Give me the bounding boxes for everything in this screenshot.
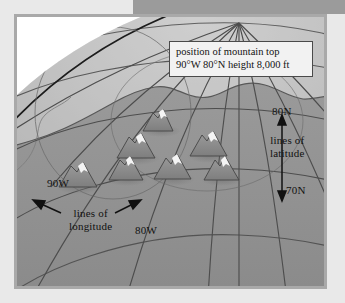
label-lines-of-latitude-line1: lines of: [270, 134, 305, 147]
label-80n: 80N: [272, 105, 292, 117]
mountain-top-callout: position of mountain top 90°W 80°N heigh…: [169, 41, 313, 77]
map-panel: 80N 70N lines of latitude 90W 80W lines …: [14, 14, 327, 289]
label-lines-of-longitude-line2: longitude: [69, 220, 112, 233]
top-gray-block: [133, 0, 345, 14]
label-lines-of-longitude: lines of longitude: [69, 207, 112, 233]
label-lines-of-longitude-line1: lines of: [69, 207, 112, 220]
callout-line-1: position of mountain top: [176, 45, 307, 58]
label-70n: 70N: [286, 184, 306, 196]
label-90w: 90W: [47, 177, 69, 189]
diagram-root: 80N 70N lines of latitude 90W 80W lines …: [0, 0, 345, 303]
label-lines-of-latitude-line2: latitude: [270, 147, 305, 160]
label-lines-of-latitude: lines of latitude: [270, 134, 305, 160]
map-canvas: 80N 70N lines of latitude 90W 80W lines …: [17, 17, 324, 286]
label-80w: 80W: [135, 224, 157, 236]
callout-line-2: 90°W 80°N height 8,000 ft: [176, 58, 307, 71]
